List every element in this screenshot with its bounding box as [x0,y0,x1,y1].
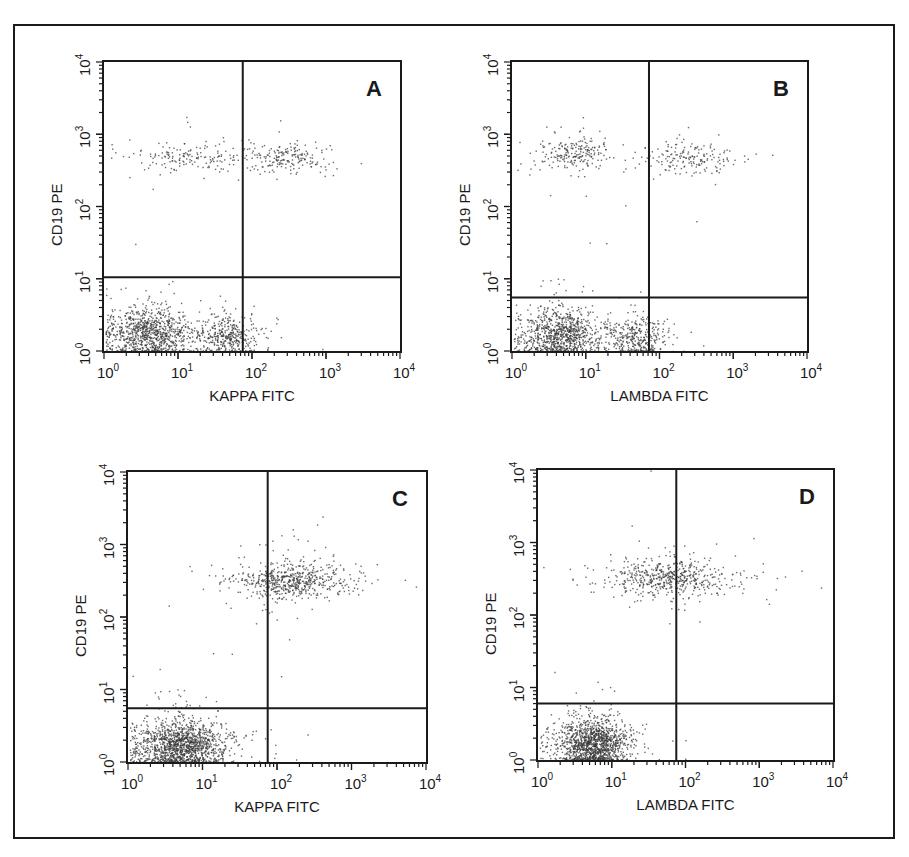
x-tick-label: 101 [605,771,627,790]
y-tick-label: 103 [508,534,527,556]
y-tick-label: 104 [508,462,527,484]
axis-ticks [0,0,909,857]
x-tick-label: 103 [752,771,774,790]
y-tick-label: 100 [508,752,527,774]
x-tick-label: 100 [531,771,553,790]
x-tick-label: 102 [678,771,700,790]
y-axis-label: CD19 PE [482,592,499,655]
y-tick-label: 102 [508,607,527,629]
x-axis-label: LAMBDA FITC [536,796,835,813]
y-tick-label: 101 [508,679,527,701]
x-tick-label: 104 [826,771,848,790]
